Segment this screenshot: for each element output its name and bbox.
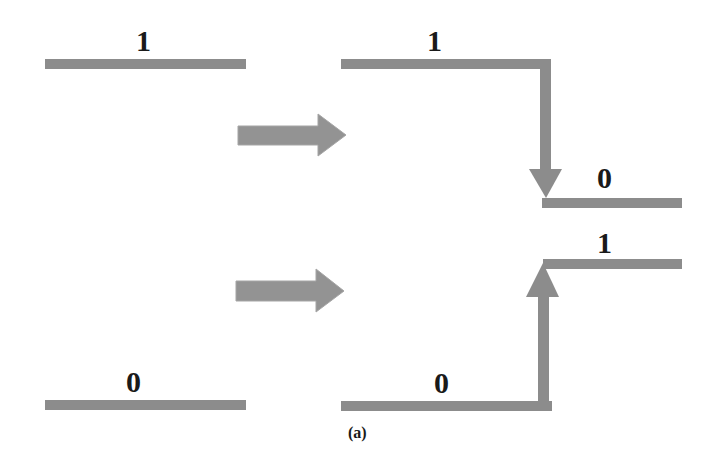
label-top-after-low: 0 — [597, 163, 612, 193]
label-bottom-after-low: 0 — [434, 368, 449, 398]
label-top-after-high: 1 — [427, 26, 442, 56]
level-line-top-before — [45, 59, 246, 69]
level-line-bottom-before — [45, 400, 246, 410]
transition-high-to-low — [341, 59, 682, 208]
figure-caption: (a) — [348, 424, 367, 442]
label-bottom-before: 0 — [126, 367, 141, 397]
transition-low-to-high — [341, 259, 682, 411]
right-arrow-icon — [236, 269, 344, 312]
right-arrow-icon — [238, 114, 346, 156]
label-bottom-after-high: 1 — [597, 228, 612, 258]
label-top-before: 1 — [136, 26, 151, 56]
